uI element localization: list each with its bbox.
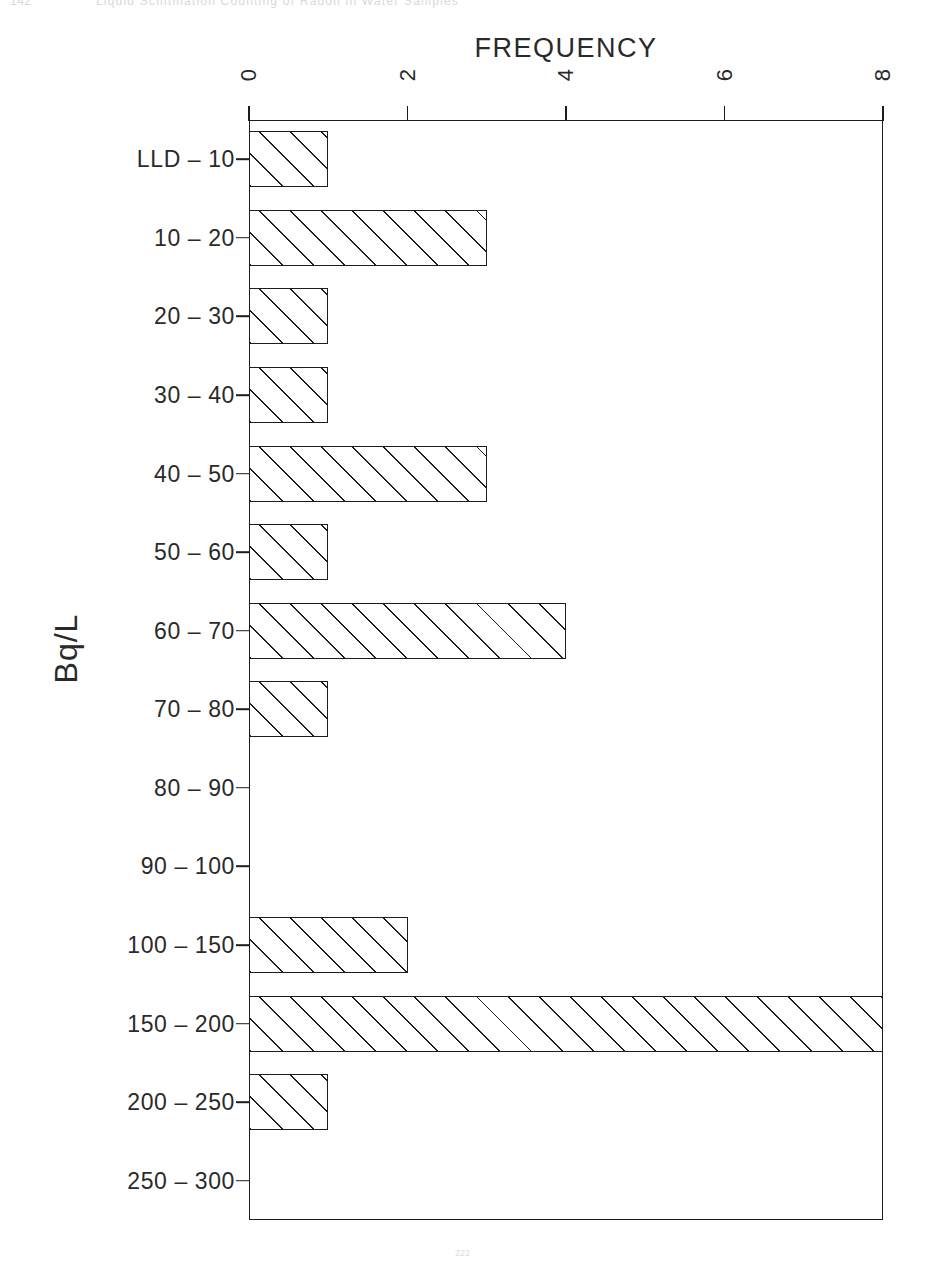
y-category-label: 40 – 50: [154, 460, 235, 487]
y-category-label: 90 – 100: [141, 853, 235, 880]
y-tick-mark: [236, 630, 250, 632]
y-tick-mark: [236, 708, 250, 710]
bar: [249, 996, 883, 1052]
x-tick-mark: [724, 106, 726, 121]
y-category-label: 20 – 30: [154, 303, 235, 330]
y-axis-title: Bq/L: [48, 574, 85, 724]
y-category-label: LLD – 10: [137, 146, 235, 173]
y-tick-mark: [236, 473, 250, 475]
y-tick-mark: [236, 787, 250, 789]
x-tick-label: 8: [870, 58, 896, 92]
y-category-label: 60 – 70: [154, 617, 235, 644]
x-tick-label: 2: [395, 58, 421, 92]
y-tick-mark: [236, 1023, 250, 1025]
y-category-label: 30 – 40: [154, 382, 235, 409]
x-tick-mark: [407, 106, 409, 121]
bar: [249, 524, 328, 580]
y-category-label: 80 – 90: [154, 774, 235, 801]
bar: [249, 681, 328, 737]
x-tick-label: 4: [553, 58, 579, 92]
histogram-chart: FREQUENCY Bq/L 02468 LLD – 1010 – 2020 –…: [0, 0, 937, 1265]
bar: [249, 603, 566, 659]
y-category-label: 200 – 250: [127, 1089, 235, 1116]
y-tick-mark: [236, 1101, 250, 1103]
bar: [249, 288, 328, 344]
bar: [249, 917, 408, 973]
y-tick-mark: [236, 237, 250, 239]
y-tick-mark: [236, 866, 250, 868]
bar: [249, 210, 487, 266]
bar: [249, 131, 328, 187]
page-footer-marker: 222: [455, 1248, 470, 1258]
x-tick-mark: [248, 106, 250, 121]
y-tick-mark: [236, 158, 250, 160]
y-category-label: 100 – 150: [127, 932, 235, 959]
y-category-label: 150 – 200: [127, 1010, 235, 1037]
y-category-label: 50 – 60: [154, 539, 235, 566]
bar: [249, 446, 487, 502]
y-tick-mark: [236, 1180, 250, 1182]
plot-area: [249, 120, 883, 1220]
y-tick-mark: [236, 316, 250, 318]
y-tick-mark: [236, 394, 250, 396]
y-category-label: 10 – 20: [154, 224, 235, 251]
y-category-label: 70 – 80: [154, 696, 235, 723]
x-tick-mark: [882, 106, 884, 121]
x-tick-mark: [565, 106, 567, 121]
y-category-label: 250 – 300: [127, 1167, 235, 1194]
y-tick-mark: [236, 551, 250, 553]
y-tick-mark: [236, 944, 250, 946]
x-tick-label: 0: [236, 58, 262, 92]
bar: [249, 1074, 328, 1130]
bar: [249, 367, 328, 423]
x-tick-label: 6: [712, 58, 738, 92]
